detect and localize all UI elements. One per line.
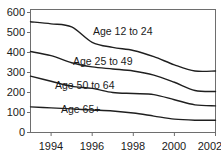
x-tick-label-2002: 2002 <box>198 140 221 152</box>
y-tick-label-0: 0 <box>19 126 25 138</box>
y-tick-label-100: 100 <box>7 106 25 118</box>
series-label-age-50-to-64: Age 50 to 64 <box>55 79 115 91</box>
x-tick-label-1996: 1996 <box>80 140 104 152</box>
y-tick-label-500: 500 <box>7 26 25 38</box>
x-tick-label-1998: 1998 <box>121 140 145 152</box>
series-label-age-25-to-49: Age 25 to 49 <box>73 55 133 67</box>
y-tick-label-300: 300 <box>7 66 25 78</box>
x-tick-label-2000: 2000 <box>162 140 186 152</box>
chart-canvas: 600 500 400 300 200 100 0 1994 1996 1998… <box>0 0 221 162</box>
y-tick-label-400: 400 <box>7 46 25 58</box>
series-label-age-12-to-24: Age 12 to 24 <box>93 25 153 37</box>
line-chart: 600 500 400 300 200 100 0 1994 1996 1998… <box>0 0 221 162</box>
series-label-age-65-plus: Age 65+ <box>61 103 100 115</box>
x-tick-label-1994: 1994 <box>39 140 63 152</box>
y-tick-label-200: 200 <box>7 86 25 98</box>
y-tick-label-600: 600 <box>7 6 25 18</box>
